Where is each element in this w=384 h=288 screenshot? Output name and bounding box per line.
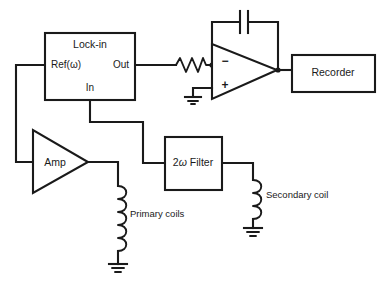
lockin-label: Lock-in xyxy=(73,38,107,50)
filter-label-omega: ω xyxy=(179,156,187,168)
opamp-plus-label: + xyxy=(221,78,228,92)
wire-opamp-plus-to-ground xyxy=(193,88,212,97)
inductor-secondary-coil xyxy=(253,180,261,219)
filter-label-suffix: Filter xyxy=(187,156,214,168)
wire-amp-to-primary-coil xyxy=(88,162,118,186)
recorder-label: Recorder xyxy=(311,66,355,78)
primary-coils-annotation: Primary coils xyxy=(130,208,185,219)
wire-filter-to-secondary-coil xyxy=(222,163,253,180)
lockin-port-in-label: In xyxy=(86,82,94,93)
lockin-port-out-label: Out xyxy=(113,59,129,70)
opamp-minus-label: − xyxy=(221,54,228,68)
inductor-primary-coils xyxy=(118,186,126,251)
secondary-coil-annotation: Secondary coil xyxy=(266,189,328,200)
circuit-diagram-canvas: Lock-in Ref(ω) Out In Recorder Amp 2ω Fi… xyxy=(0,0,384,288)
filter-label: 2ω Filter xyxy=(173,156,214,168)
wire-filter-to-lockin-in xyxy=(90,100,165,163)
amp-label: Amp xyxy=(44,156,66,168)
lockin-port-ref-label: Ref(ω) xyxy=(51,59,81,70)
resistor-zigzag xyxy=(176,58,212,72)
circuit-svg: Lock-in Ref(ω) Out In Recorder Amp 2ω Fi… xyxy=(0,0,384,288)
